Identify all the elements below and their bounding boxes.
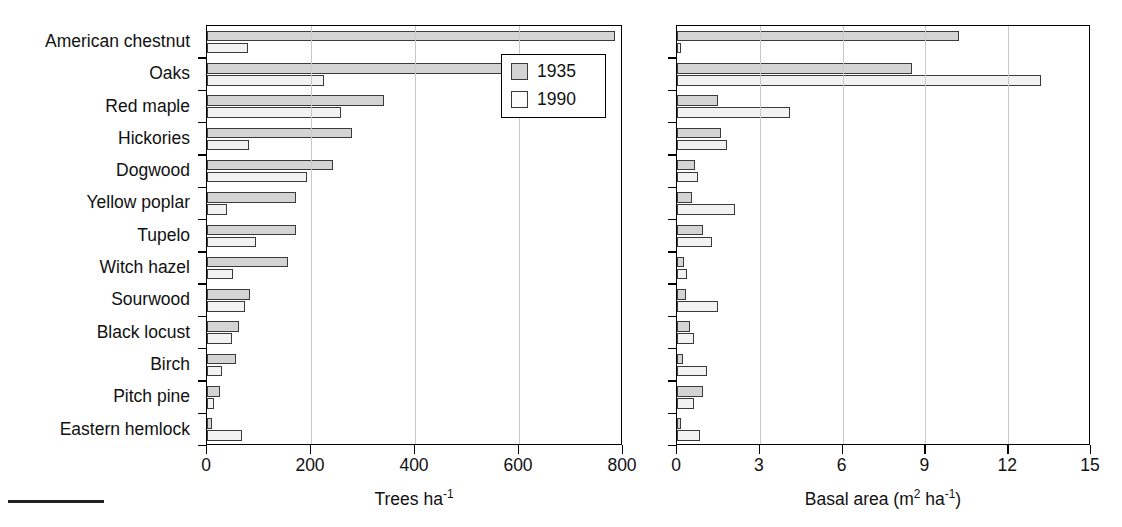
bar-1935 <box>207 225 296 236</box>
y-axis-tick <box>668 154 676 155</box>
gridline <box>415 26 416 444</box>
bar-1935 <box>677 225 703 236</box>
bar-1935 <box>677 128 721 139</box>
x-axis-tick-label: 12 <box>997 455 1016 476</box>
bar-1935 <box>207 31 615 42</box>
bar-1935 <box>677 95 718 106</box>
x-axis-tick-label: 400 <box>399 455 428 476</box>
category-label: Hickories <box>0 122 190 154</box>
bar-1990 <box>677 269 687 280</box>
bar-1990 <box>677 204 735 215</box>
bar-row <box>677 414 1089 446</box>
y-axis-tick <box>198 57 206 58</box>
bar-1935 <box>207 257 288 268</box>
bar-1935 <box>207 160 333 171</box>
bar-1935 <box>677 257 684 268</box>
y-axis-tick <box>668 445 676 446</box>
x-axis-tick-label: 800 <box>607 455 636 476</box>
bar-row <box>207 252 621 284</box>
x-axis-tick-label: 0 <box>671 455 681 476</box>
bar-1990 <box>677 301 718 312</box>
x-axis-tick-label: 200 <box>295 455 324 476</box>
bar-1990 <box>207 107 341 118</box>
y-axis-tick <box>198 380 206 381</box>
x-axis-tick-label: 9 <box>920 455 930 476</box>
bar-row <box>207 381 621 413</box>
legend-label-1935: 1935 <box>537 61 576 82</box>
bar-1990 <box>677 140 727 151</box>
bar-1990 <box>207 140 249 151</box>
bar-1990 <box>207 366 222 377</box>
bar-1935 <box>207 63 508 74</box>
bar-1990 <box>207 269 233 280</box>
legend-swatch-icon-1990 <box>511 91 528 108</box>
bar-row <box>677 91 1089 123</box>
y-axis-tick <box>668 90 676 91</box>
bar-1935 <box>207 192 296 203</box>
y-axis-tick <box>668 57 676 58</box>
bar-1935 <box>207 386 220 397</box>
y-axis-tick <box>668 316 676 317</box>
x-axis-tick <box>676 445 677 454</box>
y-axis-tick <box>668 413 676 414</box>
y-axis-tick <box>198 187 206 188</box>
bar-row <box>677 349 1089 381</box>
bar-1935 <box>677 63 912 74</box>
x-axis-tick <box>206 445 207 454</box>
bar-1990 <box>677 107 790 118</box>
category-label: Eastern hemlock <box>0 413 190 445</box>
legend-label-1990: 1990 <box>537 89 576 110</box>
x-axis-tick <box>1007 445 1008 454</box>
category-axis-labels: American chestnutOaksRed mapleHickoriesD… <box>0 25 190 445</box>
bar-row <box>677 220 1089 252</box>
category-label: Red maple <box>0 90 190 122</box>
y-axis-tick <box>198 251 206 252</box>
bar-row <box>207 220 621 252</box>
y-axis-tick <box>668 122 676 123</box>
bar-1935 <box>677 321 690 332</box>
bar-1990 <box>207 43 248 54</box>
category-label: Yellow poplar <box>0 186 190 218</box>
y-axis-tick <box>198 283 206 284</box>
legend-item-1935: 1935 <box>511 60 576 82</box>
panel-basal-area <box>676 25 1090 445</box>
legend: 1935 1990 <box>501 54 606 118</box>
x-axis-tick-label: 3 <box>754 455 764 476</box>
x-axis-tick <box>414 445 415 454</box>
legend-swatch-icon-1935 <box>511 63 528 80</box>
gridline <box>760 26 761 444</box>
category-label: Oaks <box>0 57 190 89</box>
bar-row <box>207 414 621 446</box>
x-axis-tick-label: 15 <box>1080 455 1099 476</box>
x-axis-tick <box>622 445 623 454</box>
bar-1990 <box>677 75 1041 86</box>
bar-1990 <box>677 398 694 409</box>
bar-1990 <box>677 172 698 183</box>
bar-1935 <box>677 386 703 397</box>
category-label: Black locust <box>0 316 190 348</box>
bar-row <box>677 155 1089 187</box>
category-label: American chestnut <box>0 25 190 57</box>
bar-1990 <box>677 366 707 377</box>
bars-basal <box>677 26 1089 444</box>
x-axis-tick-label: 6 <box>837 455 847 476</box>
bar-1935 <box>677 160 695 171</box>
bar-row <box>677 58 1089 90</box>
bar-1990 <box>207 398 214 409</box>
y-axis-tick <box>198 154 206 155</box>
bar-row <box>677 187 1089 219</box>
legend-item-1990: 1990 <box>511 88 576 110</box>
y-axis-tick <box>198 90 206 91</box>
y-axis-tick <box>668 348 676 349</box>
bar-row <box>677 123 1089 155</box>
y-axis-tick <box>198 122 206 123</box>
category-label: Dogwood <box>0 154 190 186</box>
bar-1935 <box>207 289 250 300</box>
bar-1935 <box>677 31 959 42</box>
x-axis-tick <box>842 445 843 454</box>
gridline <box>843 26 844 444</box>
bar-1990 <box>677 333 694 344</box>
x-axis-tick <box>310 445 311 454</box>
bar-row <box>207 317 621 349</box>
x-axis-title: Basal area (m2 ha-1) <box>676 487 1090 510</box>
